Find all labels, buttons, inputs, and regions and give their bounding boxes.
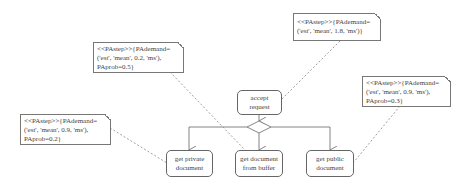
decision-diamond-icon <box>247 121 271 133</box>
annotation-note-accept: <<PAstep>>{PAdemand= ('est', 'mean', 1.8… <box>293 13 381 41</box>
annotation-note-public: <<PAstep>>{PAdemand= ('est', 'mean', 0.9… <box>362 76 451 107</box>
activity-get-document-from-buffer: get document from buffer <box>235 150 283 177</box>
activity-get-public-document: get public document <box>306 150 354 177</box>
annotation-note-private: <<PAstep>>{PAdemand= ('est', 'mean', 0.9… <box>20 114 111 145</box>
annotation-note-buffer: <<PAstep>>{PAdemand= ('est', 'mean', 0.2… <box>93 42 184 73</box>
activity-get-private-document: get private document <box>166 150 213 177</box>
activity-accept-request: accept request <box>237 90 282 115</box>
